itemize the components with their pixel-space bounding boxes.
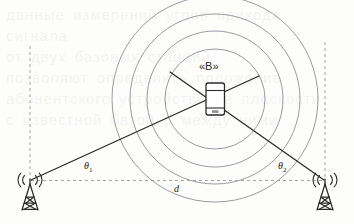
smartphone-icon <box>206 83 225 115</box>
cell-tower-icon-left <box>18 173 42 210</box>
triangulation-figure: данные измерений углов прихода сигнала о… <box>0 0 354 224</box>
cell-tower-icon-right <box>313 173 337 210</box>
bearing-lines-group <box>31 72 324 180</box>
diagram-canvas <box>0 0 354 224</box>
